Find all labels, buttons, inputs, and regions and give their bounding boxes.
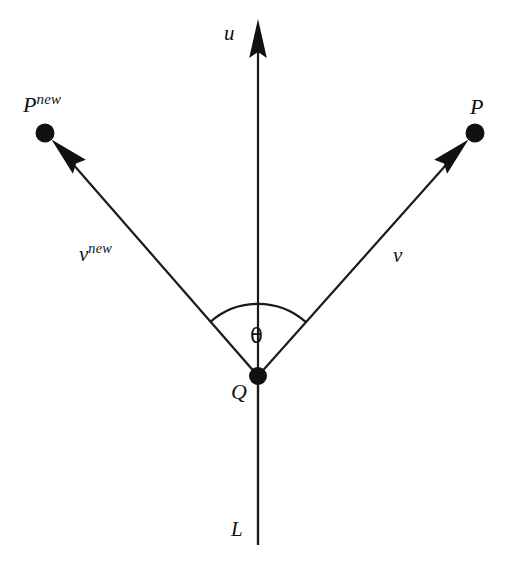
label-l: L: [231, 519, 243, 540]
point-Q-dot: [249, 367, 267, 385]
label-l-text: L: [231, 517, 243, 541]
label-v: ν: [393, 245, 402, 266]
label-v-new-superscript: new: [88, 240, 112, 256]
diagram-canvas: [0, 0, 514, 570]
label-p-new-superscript: new: [36, 91, 61, 107]
geometry-diagram: u Pnew P νnew ν θ Q L: [0, 0, 514, 570]
label-theta: θ: [250, 326, 263, 347]
label-p-text: P: [470, 94, 483, 119]
label-u-text: u: [224, 21, 235, 45]
vector-v-arrowhead: [434, 140, 468, 174]
vector-vnew-arrowhead: [52, 140, 86, 174]
point-Pnew-dot: [36, 124, 55, 143]
label-u: u: [224, 23, 235, 44]
label-q-text: Q: [231, 379, 247, 404]
label-p-new: Pnew: [23, 92, 61, 116]
label-theta-text: θ: [250, 324, 263, 348]
label-v-new: νnew: [79, 241, 112, 265]
label-p-new-base: P: [23, 92, 36, 117]
label-v-new-base: ν: [79, 242, 88, 266]
label-q: Q: [231, 381, 247, 403]
point-P-dot: [466, 124, 485, 143]
label-v-text: ν: [393, 243, 402, 267]
label-p: P: [470, 96, 483, 118]
vector-v-shaft: [258, 147, 462, 376]
